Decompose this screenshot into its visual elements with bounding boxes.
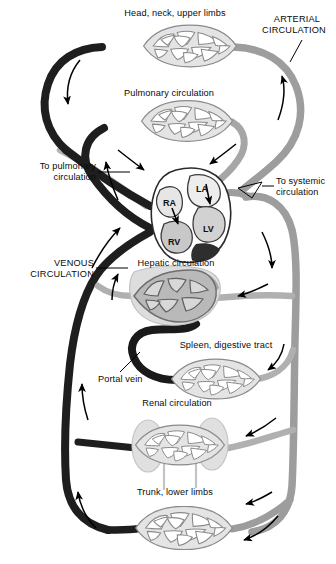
chamber-label-rv: RV bbox=[168, 237, 180, 247]
renal-artery-branch bbox=[228, 430, 293, 448]
flow-arrow-lower-limb-inflow bbox=[246, 492, 272, 504]
circulation-diagram: RA LA RV LV Head, neck, upper limbs ARTE… bbox=[0, 0, 336, 564]
label-trunk-lower-limbs: Trunk, lower limbs bbox=[120, 487, 230, 498]
label-venous-circulation-line2: CIRCULATION bbox=[4, 269, 94, 280]
flow-arrow-midleft-ascending bbox=[82, 384, 88, 420]
pulmonary-capillary-bed bbox=[142, 101, 233, 142]
label-spleen-digestive-tract: Spleen, digestive tract bbox=[156, 340, 296, 351]
hepatic-vein bbox=[98, 286, 132, 296]
flow-arrow-upper-right-ascending bbox=[278, 76, 284, 120]
label-to-pulmonary-line2: circulation bbox=[14, 172, 96, 183]
label-hepatic-circulation: Hepatic circulation bbox=[116, 258, 236, 269]
label-venous-circulation-line1: VENOUS bbox=[12, 258, 94, 269]
chamber-label-ra: RA bbox=[163, 198, 176, 208]
label-to-pulmonary-line1: To pulmonary bbox=[14, 161, 96, 172]
label-portal-vein: Portal vein bbox=[98, 374, 178, 385]
flow-arrow-pulmonary-right bbox=[210, 144, 236, 164]
label-pulmonary-circulation: Pulmonary circulation bbox=[104, 88, 234, 99]
ureters bbox=[164, 462, 196, 490]
diagram-canvas: RA LA RV LV bbox=[0, 0, 336, 564]
hepatic-artery-branch bbox=[214, 295, 292, 298]
label-to-systemic-line1: To systemic bbox=[276, 176, 336, 187]
label-arterial-circulation-line1: ARTERIAL bbox=[258, 14, 336, 25]
trunk-lower-limbs-capillary-bed bbox=[136, 506, 233, 549]
flow-arrow-pulmonary-left bbox=[118, 150, 144, 170]
artery-to-head-upper-limbs bbox=[234, 47, 301, 192]
lower-limb-vein bbox=[108, 529, 136, 530]
heart: RA LA RV LV bbox=[151, 168, 230, 262]
flow-arrow-upper-left-descending bbox=[68, 60, 81, 104]
chamber-label-la: LA bbox=[196, 184, 208, 194]
spleen-digestive-capillary-bed bbox=[172, 359, 261, 399]
leader-arterial-circulation bbox=[290, 40, 302, 62]
label-head-neck-upper-limbs: Head, neck, upper limbs bbox=[110, 8, 240, 19]
label-to-systemic-line2: circulation bbox=[276, 187, 336, 198]
chamber-label-lv: LV bbox=[203, 224, 214, 234]
head-neck-upper-limbs-capillary-bed bbox=[144, 25, 237, 67]
flow-arrow-systemic-descending bbox=[262, 232, 272, 268]
label-renal-circulation: Renal circulation bbox=[122, 398, 232, 409]
label-arterial-circulation-line2: CIRCULATION bbox=[252, 25, 336, 36]
renal-vein bbox=[78, 442, 136, 448]
